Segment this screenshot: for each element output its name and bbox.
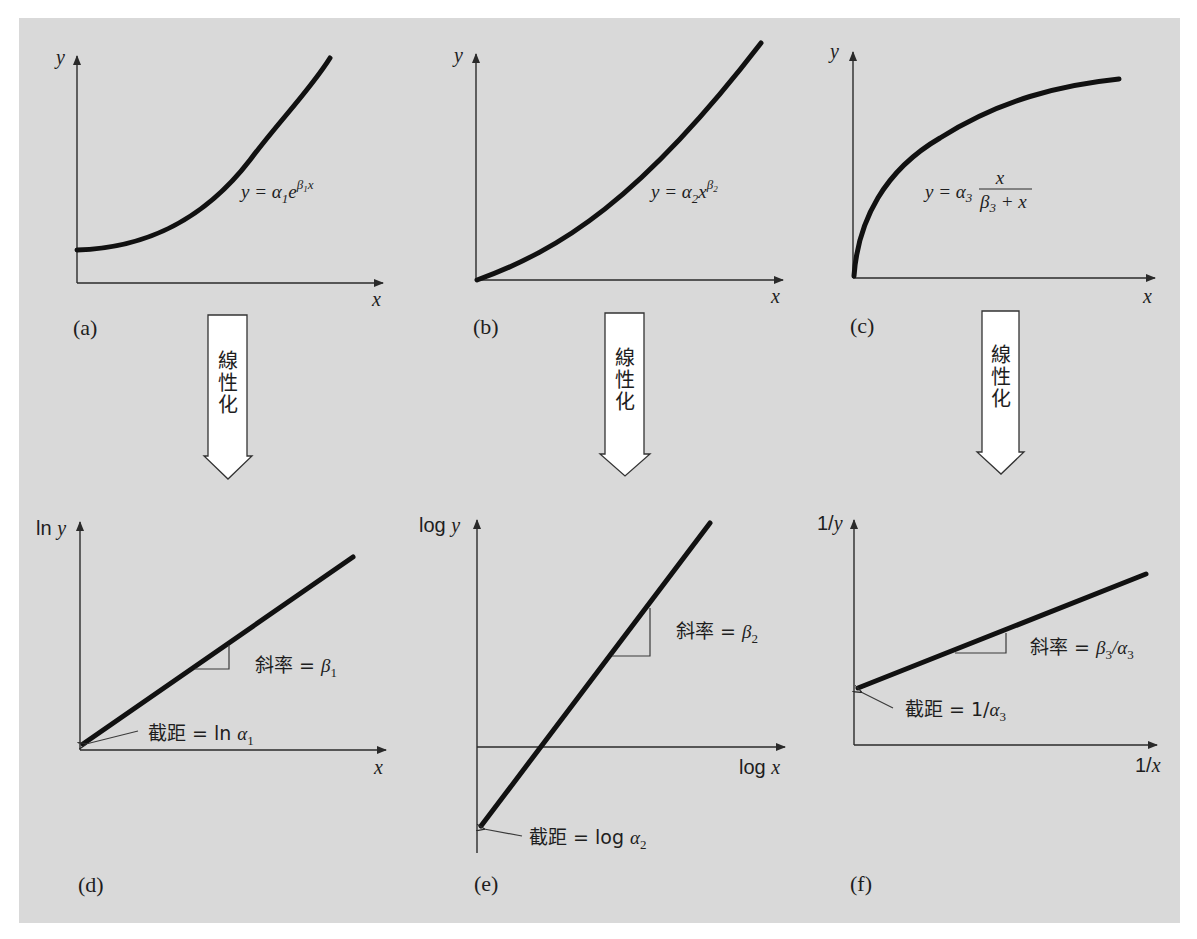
svg-text:y = α3: y = α3 (923, 181, 973, 205)
y-axis-label: log y (419, 514, 460, 537)
linearize-arrow-b: 線 性 化 (600, 313, 650, 476)
panel-label: (e) (474, 871, 498, 896)
linearize-arrow-c: 線 性 化 (977, 311, 1024, 474)
svg-text:線: 線 (991, 343, 1011, 367)
y-axis-label: y (828, 40, 839, 63)
x-axis-label: x (1142, 285, 1152, 307)
svg-text:線: 線 (615, 346, 635, 370)
svg-text:線: 線 (218, 349, 238, 373)
panel-label: (c) (850, 313, 874, 338)
svg-text:β3 + x: β3 + x (979, 191, 1027, 215)
figure-background (19, 18, 1180, 923)
panel-label: (a) (73, 315, 97, 340)
y-axis-label: y (452, 44, 463, 67)
x-axis-label: 1/x (1135, 754, 1161, 776)
svg-text:性: 性 (218, 371, 238, 395)
svg-text:性: 性 (615, 368, 635, 392)
linearization-figure: y x y = α1eβ1x (a) y x y = α2xβ2 (b) y x… (0, 0, 1197, 939)
svg-text:性: 性 (991, 365, 1011, 389)
linearize-arrow-a: 線 性 化 (204, 315, 252, 479)
panel-label: (b) (473, 314, 499, 339)
panel-label: (d) (78, 872, 104, 897)
svg-text:化: 化 (615, 390, 635, 414)
y-axis-label: 1/y (817, 512, 843, 535)
x-axis-label: x (770, 285, 780, 307)
svg-text:化: 化 (218, 393, 238, 417)
svg-text:x: x (995, 167, 1005, 188)
y-axis-label: y (54, 46, 65, 69)
panel-label: (f) (850, 871, 872, 896)
y-axis-label: ln y (36, 517, 66, 540)
svg-text:化: 化 (991, 387, 1011, 411)
x-axis-label: x (371, 288, 381, 310)
x-axis-label: x (373, 756, 383, 778)
x-axis-label: log x (739, 756, 780, 778)
